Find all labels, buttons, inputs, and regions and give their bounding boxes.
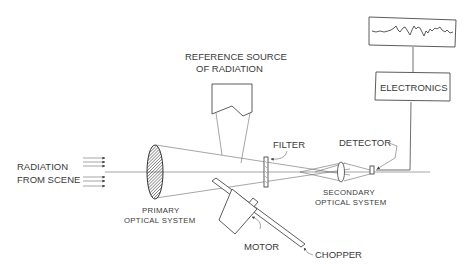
chopper-label: CHOPPER (315, 249, 362, 260)
motor-label: MOTOR (244, 241, 279, 252)
arrows-icon (83, 158, 105, 186)
svg-text:FROM SCENE: FROM SCENE (17, 174, 80, 185)
beam-cone (156, 145, 350, 198)
svg-text:RADIATION: RADIATION (17, 161, 68, 172)
box-icon: ELECTRONICS (375, 72, 450, 101)
detector-icon (370, 166, 374, 174)
svg-text:PRIMARY: PRIMARY (142, 206, 180, 215)
radiometer-diagram: RADIATION FROM SCENE PRIMARY OPTICAL SYS… (0, 0, 470, 270)
svg-text:OF RADIATION: OF RADIATION (196, 63, 263, 74)
filter-label: FILTER (273, 139, 305, 150)
square-box-icon (219, 189, 258, 234)
signal-wire (376, 102, 411, 170)
detector-label: DETECTOR (339, 137, 391, 148)
waveform-icon (369, 17, 456, 47)
svg-text:OPTICAL SYSTEM: OPTICAL SYSTEM (124, 216, 196, 225)
svg-text:ELECTRONICS: ELECTRONICS (380, 82, 448, 93)
primary-optical-label: PRIMARY OPTICAL SYSTEM (124, 206, 196, 225)
reference-source-label: REFERENCE SOURCE OF RADIATION (185, 51, 287, 74)
radiation-label: RADIATION FROM SCENE (17, 161, 80, 185)
svg-text:REFERENCE SOURCE: REFERENCE SOURCE (185, 51, 287, 62)
svg-text:OPTICAL SYSTEM: OPTICAL SYSTEM (315, 198, 387, 207)
svg-text:SECONDARY: SECONDARY (323, 188, 375, 197)
hatched-lens-icon (147, 145, 163, 199)
source-box-icon (212, 84, 252, 116)
secondary-optical-label: SECONDARY OPTICAL SYSTEM (315, 188, 387, 207)
